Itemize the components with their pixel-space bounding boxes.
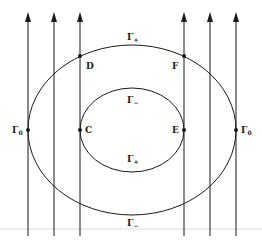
arrow-up-icon <box>77 12 83 22</box>
point-gamma0-right <box>234 128 238 132</box>
point-c <box>78 128 82 132</box>
point-e <box>182 128 186 132</box>
arrow-up-icon <box>51 12 57 22</box>
label-outer-top: Γ+ <box>127 32 138 43</box>
diagram-canvas: Γ+ Γ− Γ+ Γ− D F C E Γ0 Γ0 <box>0 0 262 241</box>
label-f: F <box>172 61 179 71</box>
label-gamma0-left: Γ0 <box>12 125 23 136</box>
point-gamma0-left <box>26 128 30 132</box>
label-inner-top: Γ− <box>127 95 138 106</box>
label-d: D <box>86 61 94 71</box>
arrow-up-icon <box>181 12 187 22</box>
arrow-up-icon <box>233 12 239 22</box>
point-f <box>182 54 186 58</box>
label-outer-bottom: Γ− <box>127 218 138 229</box>
points <box>26 54 238 132</box>
label-gamma0-right: Γ0 <box>241 125 252 136</box>
arrow-up-icon <box>207 12 213 22</box>
label-e: E <box>172 125 179 135</box>
vertical-lines <box>25 12 239 236</box>
label-inner-bottom: Γ+ <box>127 154 138 165</box>
label-c: C <box>85 125 92 135</box>
arrow-up-icon <box>25 12 31 22</box>
outer-curve <box>28 45 236 215</box>
point-d <box>78 54 82 58</box>
